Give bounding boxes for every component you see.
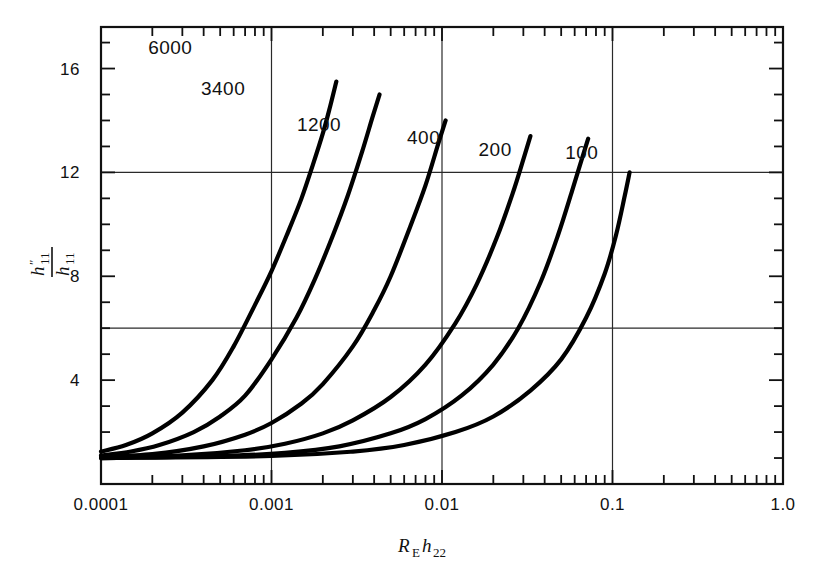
chart-figure: 600034001200400200100 0.00010.0010.010.1…: [0, 0, 820, 573]
y-axis-title-numerator-sub: 11: [37, 252, 52, 265]
y-tick-label: 4: [70, 371, 80, 390]
x-tick-label: 0.1: [600, 495, 625, 514]
y-axis-title-denominator-sub: 11: [62, 252, 77, 265]
curve-label-100: 100: [565, 142, 598, 163]
x-tick-label: 0.0001: [74, 495, 129, 514]
x-tick-label: 0.01: [424, 495, 459, 514]
figure-background: [0, 0, 820, 573]
y-tick-label: 12: [60, 163, 80, 182]
x-tick-label: 1.0: [770, 495, 795, 514]
plot-area: 600034001200400200100 0.00010.0010.010.1…: [0, 0, 820, 573]
curve-label-6000: 6000: [148, 37, 192, 58]
curve-label-200: 200: [479, 139, 512, 160]
y-axis-title-denominator: h: [52, 267, 73, 277]
y-axis-title-numerator: h: [27, 267, 48, 277]
curve-label-3400: 3400: [201, 78, 245, 99]
y-tick-label: 16: [60, 60, 80, 79]
x-axis-title-h: h: [422, 535, 432, 556]
x-axis-title-h-sub: 22: [433, 545, 446, 560]
x-tick-label: 0.001: [249, 495, 294, 514]
x-axis-title-R-sub: E: [412, 545, 420, 560]
curve-label-400: 400: [407, 127, 440, 148]
x-axis-title-R: R: [397, 535, 410, 556]
curve-label-1200: 1200: [297, 114, 341, 135]
